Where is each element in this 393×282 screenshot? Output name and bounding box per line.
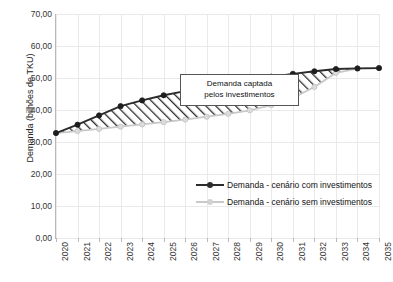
data-point [75, 129, 80, 134]
legend-item-com-investimentos[interactable]: Demanda - cenário com investimentos [196, 176, 372, 193]
data-point [53, 130, 58, 135]
legend-label-com-investimentos: Demanda - cenário com investimentos [227, 180, 372, 190]
data-point [118, 104, 123, 109]
x-axis-tick-label: 2022 [103, 242, 113, 261]
x-axis-tick-mark [379, 238, 380, 242]
captured-demand-annotation: Demanda captada pelos investimentos [180, 74, 299, 106]
x-axis-tick-mark [293, 238, 294, 242]
x-axis-tick-label: 2021 [82, 242, 92, 261]
x-axis-tick-label: 2031 [297, 242, 307, 261]
legend-swatch-sem-investimentos [196, 197, 224, 207]
data-point [183, 117, 188, 122]
legend-label-sem-investimentos: Demanda - cenário sem investimentos [227, 197, 372, 207]
x-axis-tick-label: 2035 [383, 242, 393, 261]
x-axis-tick-mark [336, 238, 337, 242]
x-axis-tick-mark [56, 238, 57, 242]
data-point [118, 124, 123, 129]
data-point [204, 114, 209, 119]
x-axis-tick-mark [207, 238, 208, 242]
x-axis-tick-label: 2033 [340, 242, 350, 261]
x-axis-tick-mark [357, 238, 358, 242]
x-axis-tick-label: 2028 [232, 242, 242, 261]
x-axis-tick-mark [228, 238, 229, 242]
data-point [226, 111, 231, 116]
data-point [161, 93, 166, 98]
x-axis-tick-label: 2026 [189, 242, 199, 261]
data-point [140, 98, 145, 103]
data-point [75, 122, 80, 127]
x-axis-tick-label: 2032 [318, 242, 328, 261]
x-axis-tick-label: 2025 [168, 242, 178, 261]
x-axis-tick-mark [185, 238, 186, 242]
annotation-line-2: pelos investimentos [184, 90, 295, 101]
data-point [96, 113, 101, 118]
x-axis-tick-mark [99, 238, 100, 242]
x-axis-tick-label: 2030 [275, 242, 285, 261]
x-axis-tick-mark [164, 238, 165, 242]
x-axis-tick-mark [121, 238, 122, 242]
x-axis-tick-mark [314, 238, 315, 242]
data-point [140, 122, 145, 127]
data-point [96, 126, 101, 131]
x-axis-tick-label: 2029 [254, 242, 264, 261]
annotation-line-1: Demanda captada [184, 79, 295, 90]
data-point [312, 69, 317, 74]
data-point [376, 65, 381, 70]
x-axis-tick-label: 2027 [211, 242, 221, 261]
legend-swatch-com-investimentos [196, 180, 224, 190]
data-point [355, 66, 360, 71]
x-axis-tick-mark [250, 238, 251, 242]
x-axis-tick-label: 2024 [146, 242, 156, 261]
chart-legend: Demanda - cenário com investimentos Dema… [196, 176, 372, 210]
x-axis-tick-label: 2020 [60, 242, 70, 261]
legend-item-sem-investimentos[interactable]: Demanda - cenário sem investimentos [196, 193, 372, 210]
x-axis-tick-mark [78, 238, 79, 242]
x-axis-tick-label: 2034 [361, 242, 371, 261]
data-point [312, 84, 317, 89]
x-axis-tick-mark [271, 238, 272, 242]
data-point [247, 108, 252, 113]
data-point [333, 66, 338, 71]
data-point [161, 120, 166, 125]
x-axis-tick-mark [142, 238, 143, 242]
x-axis-tick-label: 2023 [125, 242, 135, 261]
